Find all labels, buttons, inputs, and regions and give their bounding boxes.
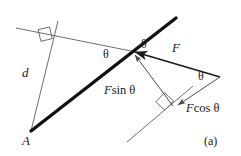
figure-caption: (a) bbox=[204, 135, 217, 147]
label-theta-right: θ bbox=[198, 70, 204, 82]
diagram-canvas bbox=[0, 0, 241, 156]
label-f-cos-theta: Fcos θ bbox=[186, 102, 219, 115]
label-theta-top: θ bbox=[141, 38, 147, 50]
label-point-a: A bbox=[22, 134, 30, 147]
label-force-f: F bbox=[172, 41, 180, 54]
physics-vector-figure: A d θ θ F θ Fsin θ Fcos θ (a) bbox=[0, 0, 241, 156]
label-f-cos-theta-function: cos θ bbox=[194, 101, 220, 115]
label-f-cos-theta-symbol: F bbox=[186, 101, 194, 115]
component-axis-line bbox=[127, 86, 193, 142]
vector-f-sin-theta bbox=[135, 55, 173, 106]
label-distance-d: d bbox=[22, 66, 29, 79]
label-theta-left: θ bbox=[103, 48, 109, 60]
vector-f bbox=[135, 52, 220, 77]
label-f-sin-theta-function: sin θ bbox=[112, 83, 136, 97]
label-f-sin-theta-symbol: F bbox=[104, 83, 112, 97]
label-f-sin-theta: Fsin θ bbox=[104, 84, 135, 97]
perpendicular-construction-line bbox=[16, 28, 131, 51]
